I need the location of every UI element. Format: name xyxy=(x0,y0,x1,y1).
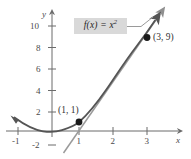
graph-figure: 10 8 6 4 2 -2 -1 1 2 3 y x (1, 1) (3, 9)… xyxy=(0,0,191,159)
function-formula-text: f(x) = x2 xyxy=(84,21,118,31)
point-marker-1-1 xyxy=(76,119,83,126)
x-tick-label-minus-1: -1 xyxy=(12,137,20,146)
x-tick-label-3: 3 xyxy=(145,137,150,146)
point-marker-3-9 xyxy=(144,34,151,41)
x-tick-label-2: 2 xyxy=(111,137,116,146)
y-tick-label-4: 4 xyxy=(36,87,41,96)
y-tick-label-10: 10 xyxy=(30,22,39,31)
function-formula-base: f(x) = x xyxy=(84,20,114,30)
x-axis-label: x xyxy=(176,136,180,145)
function-formula-box: f(x) = x2 xyxy=(74,18,127,34)
function-formula-exponent: 2 xyxy=(114,18,117,25)
y-tick-label-minus-2: -2 xyxy=(32,141,40,150)
y-axis-label: y xyxy=(42,10,46,19)
point-label-3-9: (3, 9) xyxy=(153,33,174,43)
y-tick-label-2: 2 xyxy=(36,108,41,117)
x-tick-label-1: 1 xyxy=(77,137,82,146)
point-label-1-1: (1, 1) xyxy=(58,106,79,116)
formula-leader-line xyxy=(127,17,153,27)
y-tick-label-8: 8 xyxy=(36,44,41,53)
y-tick-label-6: 6 xyxy=(36,65,41,74)
